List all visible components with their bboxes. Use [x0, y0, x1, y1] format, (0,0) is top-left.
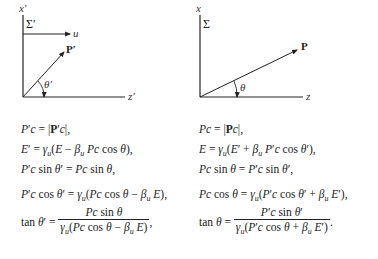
right-eq-transverse: Pc sin θ = P′c sin θ′, — [199, 162, 293, 176]
sigma-prime-label: Σ′ — [26, 17, 36, 31]
theta-prime-label: θ′ — [44, 78, 52, 90]
right-eq-longitudinal: Pc cos θ = γu(P′c cos θ′ + βu E′), — [199, 187, 348, 206]
right-frame-diagram: x Σ P θ z — [195, 2, 311, 102]
right-eq-tangent: tan θ = P′c sin θ′ γu(P′c cos θ + βu E′)… — [199, 205, 333, 239]
p-prime-label: P′ — [66, 43, 76, 55]
theta-label: θ — [240, 81, 246, 93]
angle-theta-arc — [234, 81, 237, 97]
velocity-u-label: u — [73, 27, 79, 39]
x-axis-label: x — [195, 2, 201, 14]
left-eq-longitudinal: P′c cos θ′ = γu(Pc cos θ − βu E), — [21, 187, 167, 206]
z-axis-label: z — [305, 90, 311, 102]
x-prime-axis-label: x′ — [18, 2, 27, 14]
left-frame-diagram: x′ Σ′ u P′ θ′ z′ — [18, 2, 135, 102]
left-eq-tangent: tan θ′ = Pc sin θ γu(Pc cos θ − βu E) , — [21, 205, 152, 239]
sigma-label: Σ — [203, 17, 210, 31]
z-prime-axis-label: z′ — [127, 90, 135, 102]
right-eq-energy: E = γu(E′ + βu P′c cos θ′), — [199, 142, 316, 161]
left-eq-transverse: P′c sin θ′ = Pc sin θ, — [21, 162, 115, 176]
p-label: P — [301, 40, 308, 52]
right-eq-momentum-magnitude: Pc = |Pc|, — [199, 122, 243, 136]
momentum-p-arrow — [200, 50, 297, 97]
left-eq-momentum-magnitude: P′c = |P′c|, — [21, 122, 70, 136]
frames-diagram: x′ Σ′ u P′ θ′ z′ x Σ P θ z — [0, 0, 378, 110]
left-eq-energy: E′ = γu(E − βu Pc cos θ), — [21, 142, 133, 161]
